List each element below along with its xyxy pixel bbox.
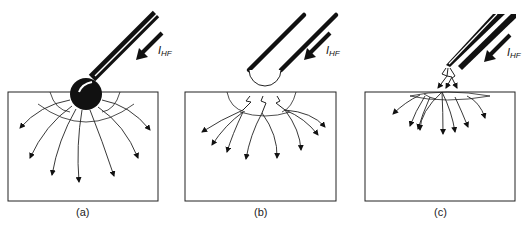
current-label-b: IHF — [326, 44, 340, 58]
current-label-c: IHF — [507, 46, 521, 60]
hollow-tip-icon — [249, 70, 281, 86]
diagram-canvas — [0, 0, 527, 225]
current-subscript: HF — [510, 51, 521, 60]
current-arrows-a — [20, 100, 150, 182]
panel-label-c: (c) — [434, 206, 447, 218]
panel-c — [365, 14, 516, 201]
spark-lines-b — [243, 96, 285, 113]
panel-label-b: (b) — [254, 206, 267, 218]
panel-label-a: (a) — [76, 206, 89, 218]
tissue-box-c — [365, 92, 515, 201]
current-subscript: HF — [161, 49, 172, 58]
current-arrows-c — [393, 92, 485, 134]
panel-a — [8, 14, 162, 201]
equipotential-lines-c — [410, 92, 490, 100]
ball-electrode-icon — [70, 78, 102, 110]
current-label-a: IHF — [158, 44, 172, 58]
panel-b — [185, 15, 336, 201]
tissue-box-b — [185, 92, 336, 201]
current-subscript: HF — [329, 49, 340, 58]
current-arrows-b — [202, 110, 325, 159]
spark-lines-c — [438, 68, 457, 88]
